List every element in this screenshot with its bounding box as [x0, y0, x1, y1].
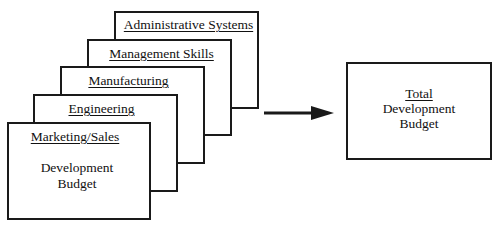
arrow-right-icon: [263, 105, 335, 121]
total-body-line: Budget: [348, 116, 490, 131]
card-body-line: Budget: [5, 176, 149, 192]
card-body-line: Development: [5, 160, 149, 176]
card-title: Administrative Systems: [120, 17, 257, 33]
total-development-budget-box: Total Development Budget: [346, 62, 492, 160]
card-title: Manufacturing: [54, 73, 203, 89]
total-body: Development Budget: [348, 101, 490, 131]
total-body-line: Development: [348, 101, 490, 116]
card-title: Engineering: [27, 101, 176, 117]
card-title: Marketing/Sales: [1, 129, 149, 145]
card-body: Development Budget: [5, 160, 149, 192]
total-title: Total: [348, 86, 490, 101]
card-marketing-sales: Marketing/Sales Development Budget: [7, 122, 151, 220]
card-title: Management Skills: [93, 46, 230, 62]
